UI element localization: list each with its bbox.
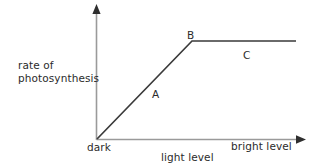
x-axis-label: light level [161, 151, 214, 163]
x-axis-arrowhead [296, 135, 306, 144]
y-axis-label: rate ofphotosynthesis [18, 59, 99, 84]
curve-annotation-c: C [243, 49, 250, 61]
y-axis-arrowhead [92, 4, 100, 14]
photosynthesis-light-level-diagram: rate ofphotosynthesis dark bright level … [0, 0, 321, 168]
x-axis-start-label: dark [87, 141, 111, 153]
curve-annotation-a: A [152, 88, 159, 100]
curve-annotation-b: B [187, 29, 194, 41]
y-axis-label-line1: rate of [18, 59, 54, 71]
y-axis-label-line2: photosynthesis [18, 72, 99, 84]
x-axis-end-label: bright level [231, 140, 292, 152]
photosynthesis-curve [97, 41, 296, 139]
